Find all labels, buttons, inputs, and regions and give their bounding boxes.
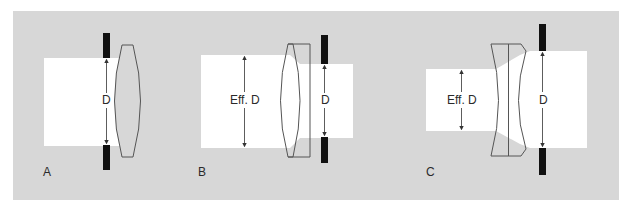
dimension-label-d-b: D [320,94,331,106]
aperture-stop-top-a [103,33,110,58]
aperture-stop-bottom-c [539,148,546,175]
dimension-label-eff-d-b: Eff. D [229,94,261,106]
aperture-stop-top-c [539,24,546,51]
aperture-stop-bottom-a [103,145,110,170]
panel-label-b: B [198,166,206,178]
panel-label-a: A [43,166,51,178]
biconvex-lens-a [115,45,141,157]
dimension-label-d-a: D [101,94,112,106]
aperture-stop-top-b [321,35,328,64]
panel-a [44,33,141,170]
aperture-stop-bottom-b [321,137,328,163]
dimension-label-eff-d-c: Eff. D [446,94,478,106]
dimension-label-d-c: D [538,94,549,106]
panel-label-c: C [426,166,435,178]
